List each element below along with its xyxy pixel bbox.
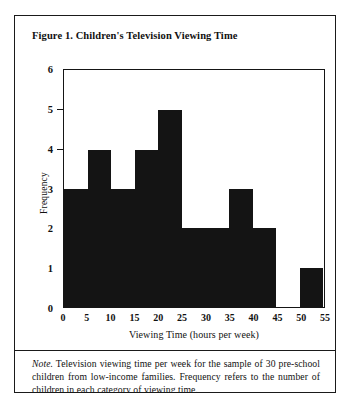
histogram-bar: [111, 189, 135, 307]
note-lead: Note.: [32, 358, 53, 369]
plot-frame: [63, 69, 325, 308]
x-tick-label-25: 25: [170, 312, 194, 323]
x-tick-label-20: 20: [146, 312, 170, 323]
figure-container: Figure 1. Children's Television Viewing …: [14, 15, 336, 393]
y-tick-label-6: 6: [31, 64, 53, 75]
histogram-bar: [182, 228, 206, 307]
chart-region: 6 5 4 3 2 1 0 Frequency 0 5 10 15 20 25 …: [15, 54, 336, 334]
histogram-bar: [64, 189, 88, 307]
y-tick-label-5: 5: [31, 103, 53, 114]
x-tick-label-40: 40: [242, 312, 266, 323]
y-tick-label-0: 0: [31, 303, 53, 314]
y-axis-title: Frequency: [39, 148, 49, 238]
histogram-bar: [135, 150, 159, 307]
x-tick-label-15: 15: [123, 312, 147, 323]
x-tick-label-45: 45: [265, 312, 289, 323]
y-tick-label-1: 1: [31, 263, 53, 274]
x-tick-label-35: 35: [218, 312, 242, 323]
figure-title: Figure 1. Children's Television Viewing …: [32, 30, 238, 41]
bars-group: [64, 70, 324, 307]
histogram-bar: [205, 228, 229, 307]
histogram-bar: [88, 150, 112, 307]
x-tick-label-10: 10: [99, 312, 123, 323]
x-tick-label-50: 50: [289, 312, 313, 323]
x-axis-title: Viewing Time (hours per week): [63, 329, 325, 340]
note-divider: [15, 350, 336, 351]
note-body: Television viewing time per week for the…: [32, 358, 320, 393]
histogram-bar: [253, 228, 277, 307]
x-tick-label-30: 30: [194, 312, 218, 323]
figure-note: Note. Television viewing time per week f…: [32, 357, 320, 393]
histogram-bar: [229, 189, 253, 307]
histogram-bar: [300, 268, 324, 307]
x-tick-label-5: 5: [75, 312, 99, 323]
x-tick-label-55: 55: [313, 312, 336, 323]
x-tick-label-0: 0: [51, 312, 75, 323]
histogram-bar: [158, 110, 182, 307]
